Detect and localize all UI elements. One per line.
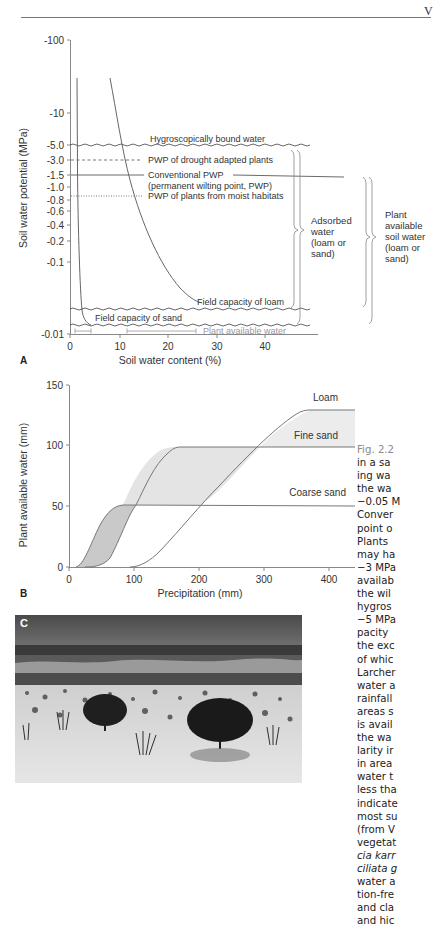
- x-tick: 40: [259, 341, 271, 352]
- panel-label-c: C: [20, 617, 28, 629]
- y-tick: -1.0: [47, 182, 65, 193]
- annotation-plant-available-water: Plant available water: [203, 326, 286, 336]
- y-tick: -5.0: [47, 140, 65, 151]
- x-tick: 0: [67, 341, 73, 352]
- panel-c-photo: [15, 615, 302, 783]
- caption-line: cia karr: [357, 849, 437, 862]
- caption-line: the wa: [357, 731, 437, 744]
- caption-line: Fig. 2.2: [357, 443, 437, 456]
- caption-line: in a sa: [357, 456, 437, 469]
- caption-line: rainfall: [357, 692, 437, 705]
- x-tick: 10: [114, 341, 126, 352]
- y-tick: 100: [46, 440, 63, 451]
- caption-line: areas s: [357, 705, 437, 718]
- figure-caption: Fig. 2.2in a saing wathe wa−0.05 MConver…: [357, 443, 437, 927]
- caption-line: ing wa: [357, 469, 437, 482]
- y-tick: -0.4: [47, 220, 65, 231]
- x-axis-label: Soil water content (%): [119, 354, 222, 366]
- caption-line: of whic: [357, 653, 437, 666]
- caption-line: Conver: [357, 508, 437, 521]
- y-tick: 0: [57, 562, 63, 573]
- caption-line: and hic: [357, 914, 437, 927]
- caption-line: −3 MPa: [357, 561, 437, 574]
- annotation-fc-loam: Field capacity of loam: [197, 297, 284, 307]
- x-tick: 300: [256, 574, 273, 585]
- x-axis-label: Precipitation (mm): [157, 587, 242, 599]
- bracket-plant-available-label: soil water: [385, 231, 425, 242]
- bracket-plant-available-label: available: [385, 220, 423, 231]
- caption-line: −0.05 M: [357, 495, 437, 508]
- bracket-adsorbed-label: (loam or: [311, 237, 346, 248]
- caption-line: vegetat: [357, 836, 437, 849]
- caption-line: may ha: [357, 548, 437, 561]
- annotation-conventional-pwp-sub: (permanent wilting point, PWP): [148, 181, 272, 191]
- caption-line: less tha: [357, 783, 437, 796]
- caption-line: indicate: [357, 797, 437, 810]
- x-tick: 400: [321, 574, 338, 585]
- bracket-adsorbed-label: water: [310, 226, 334, 237]
- x-tick: 0: [66, 574, 72, 585]
- caption-line: Plants: [357, 535, 437, 548]
- bracket-plant-available-label: Plant: [385, 209, 407, 220]
- y-tick: -0.1: [47, 257, 65, 268]
- y-tick: 50: [52, 501, 64, 512]
- series-label-loam: Loam: [313, 392, 338, 403]
- y-tick: -1.5: [47, 170, 65, 181]
- caption-line: hygros: [357, 600, 437, 613]
- caption-line: most su: [357, 810, 437, 823]
- x-tick: 200: [191, 574, 208, 585]
- bracket-adsorbed-label: sand): [311, 248, 335, 259]
- caption-line: (from V: [357, 823, 437, 836]
- caption-line: ciliata g: [357, 862, 437, 875]
- bracket-adsorbed-label: Adsorbed: [311, 215, 352, 226]
- bracket-plant-available-label: sand): [385, 253, 409, 264]
- y-tick: -0.8: [47, 195, 65, 206]
- annotation-fc-sand: Field capacity of sand: [95, 313, 182, 323]
- panel-a-chart: -100 -10 -5.0 -3.0 -1.5 -1.0 -0.8 -0.6 -…: [0, 0, 431, 380]
- caption-line: in area: [357, 757, 437, 770]
- y-tick: -100: [44, 35, 64, 46]
- caption-line: is avail: [357, 718, 437, 731]
- caption-line: −5 MPa: [357, 613, 437, 626]
- x-tick: 20: [162, 341, 174, 352]
- y-tick: -10: [50, 108, 65, 119]
- caption-line: larity ir: [357, 744, 437, 757]
- x-tick: 100: [126, 574, 143, 585]
- caption-line: the wa: [357, 482, 437, 495]
- series-label-fine-sand: Fine sand: [294, 430, 338, 441]
- annotation-pwp-drought: PWP of drought adapted plants: [148, 155, 273, 165]
- y-tick: -0.01: [41, 329, 64, 340]
- annotation-conventional-pwp: Conventional PWP: [148, 170, 224, 180]
- y-tick: 150: [46, 380, 63, 391]
- y-axis-label: Soil water potential (MPa): [17, 128, 29, 248]
- caption-line: Larcher: [357, 666, 437, 679]
- panel-label-a: A: [20, 355, 27, 366]
- panel-b-chart: 150 100 50 0 0 100 200 300 400 Precipita…: [0, 375, 360, 610]
- caption-line: and cla: [357, 901, 437, 914]
- caption-line: pacity: [357, 626, 437, 639]
- x-tick: 30: [211, 341, 223, 352]
- caption-line: water t: [357, 770, 437, 783]
- bracket-plant-available-label: (loam or: [385, 242, 420, 253]
- caption-line: water a: [357, 875, 437, 888]
- y-axis-label: Plant available water (mm): [17, 423, 29, 547]
- caption-line: the wil: [357, 587, 437, 600]
- y-tick: -0.6: [47, 206, 65, 217]
- series-label-coarse-sand: Coarse sand: [289, 487, 346, 498]
- y-tick: -3.0: [47, 155, 65, 166]
- caption-line: point o: [357, 522, 437, 535]
- caption-line: water a: [357, 679, 437, 692]
- annotation-pwp-moist: PWP of plants from moist habitats: [148, 191, 284, 201]
- caption-line: availab: [357, 574, 437, 587]
- panel-label-b: B: [20, 588, 27, 599]
- caption-line: tion-fre: [357, 888, 437, 901]
- caption-line: the exc: [357, 639, 437, 652]
- y-tick: -0.2: [47, 236, 65, 247]
- annotation-hygroscopic: Hygroscopically bound water: [150, 134, 265, 144]
